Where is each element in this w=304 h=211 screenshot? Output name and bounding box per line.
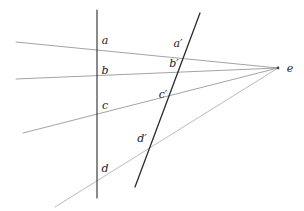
label-c-prime: c′: [159, 89, 168, 100]
label-d-prime: d′: [137, 133, 147, 144]
label-c: c: [102, 100, 108, 111]
label-b-prime: b′: [169, 58, 179, 69]
ray-group: [16, 42, 278, 207]
ray-a: [16, 42, 278, 68]
label-e: e: [287, 63, 294, 74]
label-a: a: [102, 35, 109, 46]
label-d: d: [101, 163, 108, 174]
diagram-canvas: [0, 0, 304, 211]
geometry-diagram: a b c d a′ b′ c′ d′ e: [0, 0, 304, 211]
transversal-group: [97, 10, 200, 198]
vanishing-point-marker: [277, 67, 280, 70]
ray-b: [16, 68, 278, 79]
label-b: b: [101, 65, 108, 76]
ray-c: [23, 68, 278, 133]
label-a-prime: a′: [173, 38, 182, 49]
